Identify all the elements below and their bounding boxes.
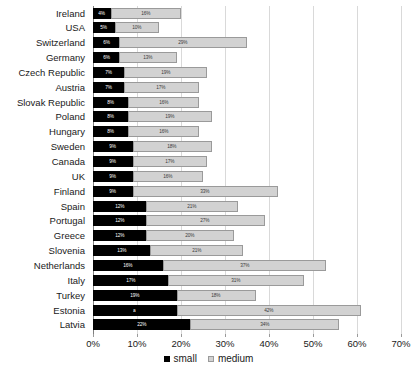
bar-segment-small: 9% (93, 141, 133, 152)
bar-segment-medium: 17% (124, 82, 199, 93)
gridline-70 (401, 6, 402, 334)
bar-value-label: 22% (137, 322, 146, 327)
bar-segment-medium: 13% (119, 52, 176, 63)
bar-segment-medium: 42% (177, 305, 362, 316)
category-label: Latvia (60, 319, 85, 330)
bar-segment-medium: 37% (163, 260, 326, 271)
bar-value-label: 19% (165, 115, 174, 120)
y-axis-category-labels: IrelandUSASwitzerlandGermanyCzech Republ… (0, 6, 89, 334)
category-label: Sweden (51, 141, 85, 152)
bar-value-label: 4% (98, 11, 105, 16)
bar-segment-medium: 19% (128, 111, 212, 122)
bar-segment-small: 6% (93, 52, 119, 63)
category-label: UK (72, 171, 85, 182)
bar-row: a42% (93, 305, 361, 316)
category-label: Switzerland (36, 37, 85, 48)
category-label: Netherlands (34, 260, 85, 271)
bar-row: 9%18% (93, 141, 212, 152)
bar-segment-medium: 20% (146, 230, 234, 241)
bar-row: 9%16% (93, 171, 203, 182)
legend-item-medium: medium (208, 353, 254, 364)
plot-area: 4%16%5%10%6%29%6%13%7%19%7%17%8%16%8%19%… (93, 6, 401, 334)
x-tick-label: 10% (127, 338, 146, 349)
bar-row: 4%16% (93, 8, 181, 19)
bar-segment-small: 8% (93, 126, 128, 137)
bar-row: 9%33% (93, 186, 278, 197)
bar-value-label: 17% (157, 85, 166, 90)
bar-value-label: 7% (105, 70, 112, 75)
bar-segment-medium: 21% (146, 201, 238, 212)
bar-row: 17%31% (93, 275, 304, 286)
bar-segment-small: 12% (93, 201, 146, 212)
x-tick-mark (269, 334, 270, 337)
bar-value-label: 21% (192, 248, 201, 253)
bar-value-label: 34% (260, 322, 269, 327)
category-label: Slovenia (49, 245, 85, 256)
category-label: Spain (61, 201, 85, 212)
bar-value-label: 20% (185, 233, 194, 238)
bar-rows: 4%16%5%10%6%29%6%13%7%19%7%17%8%16%8%19%… (93, 6, 401, 334)
category-label: Estonia (53, 305, 85, 316)
bar-segment-small: a (93, 305, 177, 316)
legend-label: small (174, 353, 197, 364)
category-label: Austria (55, 82, 85, 93)
bar-row: 9%17% (93, 156, 207, 167)
bar-segment-small: 17% (93, 275, 168, 286)
bar-segment-medium: 10% (115, 22, 159, 33)
bar-value-label: 12% (115, 204, 124, 209)
bar-value-label: 17% (126, 278, 135, 283)
bar-row: 7%17% (93, 82, 199, 93)
x-tick-label: 20% (171, 338, 190, 349)
bar-value-label: 31% (231, 278, 240, 283)
bar-segment-small: 6% (93, 37, 119, 48)
bar-value-label: 10% (132, 25, 141, 30)
bar-value-label: a (134, 308, 137, 313)
bar-value-label: 8% (107, 129, 114, 134)
x-tick-mark (181, 334, 182, 337)
bar-value-label: 17% (165, 159, 174, 164)
bar-segment-small: 19% (93, 290, 177, 301)
x-tick-label: 0% (86, 338, 100, 349)
bar-value-label: 9% (109, 174, 116, 179)
bar-segment-small: 9% (93, 156, 133, 167)
category-label: Canada (52, 156, 85, 167)
bar-row: 8%16% (93, 126, 199, 137)
bar-value-label: 18% (212, 293, 221, 298)
category-label: Germany (46, 52, 85, 63)
bar-row: 22%34% (93, 319, 339, 330)
category-label: Slovak Republic (17, 97, 85, 108)
category-label: Greece (54, 230, 85, 241)
category-label: Italy (68, 275, 85, 286)
legend-swatch-icon (208, 356, 214, 362)
bar-row: 5%10% (93, 22, 159, 33)
bar-segment-small: 8% (93, 97, 128, 108)
bar-segment-medium: 16% (128, 97, 198, 108)
bar-segment-medium: 17% (133, 156, 208, 167)
bar-value-label: 12% (115, 219, 124, 224)
bar-segment-medium: 18% (133, 141, 212, 152)
bar-segment-medium: 21% (150, 245, 242, 256)
bar-row: 13%21% (93, 245, 243, 256)
bar-value-label: 6% (103, 55, 110, 60)
bar-segment-medium: 31% (168, 275, 304, 286)
bar-value-label: 13% (143, 55, 152, 60)
bar-value-label: 9% (109, 159, 116, 164)
bar-segment-medium: 16% (111, 8, 181, 19)
x-tick-label: 30% (215, 338, 234, 349)
bar-segment-medium: 27% (146, 215, 265, 226)
bar-value-label: 27% (201, 219, 210, 224)
bar-value-label: 7% (105, 85, 112, 90)
bar-segment-small: 5% (93, 22, 115, 33)
bar-segment-medium: 29% (119, 37, 247, 48)
x-tick-mark (137, 334, 138, 337)
bar-segment-small: 12% (93, 215, 146, 226)
bar-segment-small: 8% (93, 111, 128, 122)
bar-value-label: 16% (124, 263, 133, 268)
bar-value-label: 5% (101, 25, 108, 30)
bar-row: 12%21% (93, 201, 238, 212)
bar-segment-medium: 16% (133, 171, 203, 182)
x-tick-mark (313, 334, 314, 337)
bar-segment-medium: 34% (190, 319, 340, 330)
x-tick-mark (357, 334, 358, 337)
x-tick-label: 40% (259, 338, 278, 349)
